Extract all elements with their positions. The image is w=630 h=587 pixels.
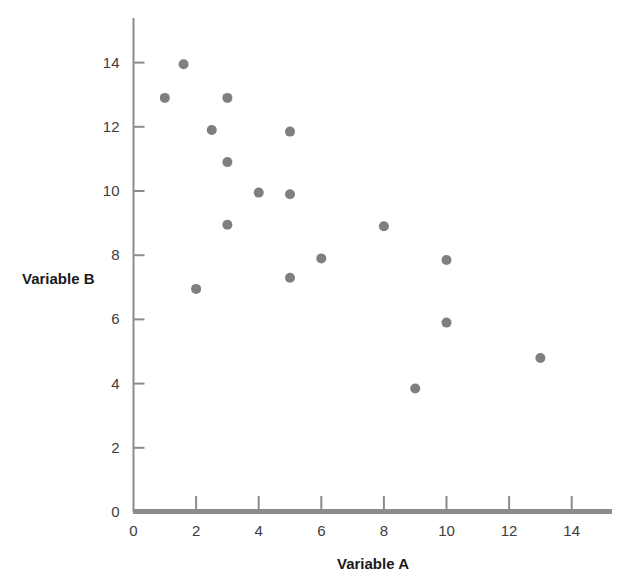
x-axis-tick-group [196,496,572,509]
data-point [160,93,170,103]
data-point [179,59,189,69]
x-axis-tick-label: 14 [563,522,580,539]
x-axis-tick-label: 6 [317,522,325,539]
data-point [191,284,201,294]
x-axis-tick-label: 10 [438,522,455,539]
x-axis-tick-label: 12 [501,522,518,539]
y-axis-tick-label: 4 [111,375,119,392]
data-point [535,353,545,363]
y-axis-tick-label: 0 [111,503,119,520]
y-axis-tick-label: 2 [111,439,119,456]
y-axis-tick-label: 12 [103,118,120,135]
scatter-plot-canvas: 02468101214 02468101214 Variable A Varia… [0,0,630,587]
data-point [285,189,295,199]
y-axis-tick-label-group: 02468101214 [103,54,120,520]
data-point [222,220,232,230]
x-axis-tick-label: 8 [380,522,388,539]
data-point [254,188,264,198]
y-axis-tick-group [134,63,145,448]
data-point-group [160,59,546,393]
y-axis-tick-label: 6 [111,310,119,327]
data-point [316,253,326,263]
y-axis-tick-label: 8 [111,246,119,263]
y-axis-title: Variable B [22,270,95,287]
y-axis-tick-label: 10 [103,182,120,199]
x-axis-title: Variable A [337,555,409,572]
data-point [207,125,217,135]
data-point [410,383,420,393]
x-axis-tick-label-group: 02468101214 [129,522,580,539]
scatter-plot-figure: 02468101214 02468101214 Variable A Varia… [0,0,630,587]
y-axis-tick-label: 14 [103,54,120,71]
x-axis-tick-label: 2 [192,522,200,539]
data-point [442,255,452,265]
data-point [285,273,295,283]
data-point [285,127,295,137]
x-axis-tick-label: 0 [129,522,137,539]
data-point [222,157,232,167]
data-point [222,93,232,103]
x-axis-tick-label: 4 [255,522,263,539]
data-point [442,318,452,328]
data-point [379,221,389,231]
